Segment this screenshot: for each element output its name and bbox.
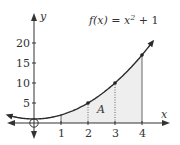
curve-point [140, 53, 144, 57]
y-tick-label: 10 [16, 77, 30, 90]
x-axis-label: x [161, 108, 168, 121]
x-tick-label: 1 [58, 127, 65, 140]
x-tick-label: 3 [112, 127, 119, 140]
x-axis-arrow-left-icon [7, 120, 15, 126]
y-tick-label: 5 [23, 97, 30, 110]
curve-point [86, 101, 90, 105]
y-tick-label: 20 [16, 37, 30, 50]
y-axis [31, 13, 37, 139]
y-axis-arrow-up-icon [31, 13, 37, 21]
region-label-a: A [96, 103, 105, 116]
y-axis-arrow-down-icon [31, 131, 37, 139]
curve-point [113, 81, 117, 85]
x-ticks: 1234 [58, 121, 146, 140]
curve-left-arrow-icon [6, 114, 14, 120]
function-label: f(x) = x2 + 1 [88, 13, 159, 27]
y-ticks: 5101520 [16, 37, 36, 110]
x-tick-label: 4 [139, 127, 146, 140]
chart: 1234 5101520 y x A f(x) = x2 + 1 [0, 0, 180, 145]
y-tick-label: 15 [16, 57, 30, 70]
x-tick-label: 2 [85, 127, 92, 140]
y-axis-label: y [39, 10, 47, 23]
